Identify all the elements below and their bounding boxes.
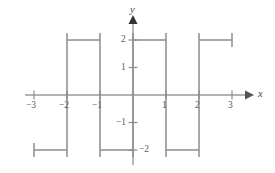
x-tick-label-neg3: −3 — [26, 101, 36, 111]
y-axis-arrow-icon — [129, 15, 138, 24]
plot-canvas — [0, 0, 275, 173]
x-tick-label-3: 3 — [228, 101, 233, 111]
x-axis-label: x — [258, 89, 263, 100]
y-tick-label-neg2: −2 — [139, 145, 149, 155]
x-axis-arrow-icon — [245, 91, 254, 100]
y-axis-label: y — [130, 5, 135, 16]
x-tick-label-1: 1 — [162, 101, 167, 111]
x-tick-label-neg2: −2 — [59, 101, 69, 111]
y-tick-label-neg1: −1 — [116, 118, 126, 128]
y-tick-label-1: 1 — [121, 63, 126, 73]
y-tick-label-2: 2 — [121, 35, 126, 45]
square-wave-figure: −3 −2 −1 1 2 3 2 1 −1 −2 x y — [0, 0, 275, 173]
x-tick-label-2: 2 — [195, 101, 200, 111]
x-tick-label-neg1: −1 — [92, 101, 102, 111]
